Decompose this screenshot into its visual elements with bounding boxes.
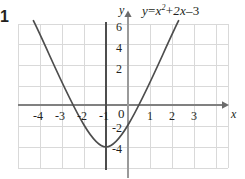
x-tick-label-2: 2 xyxy=(169,110,175,122)
parabola-figure: 1 xyxy=(0,0,245,178)
x-tick-label--2: -2 xyxy=(77,110,87,122)
y-tick-label-2: 2 xyxy=(116,63,122,75)
x-tick-label-3: 3 xyxy=(191,110,197,122)
equation-minus: – xyxy=(186,3,193,18)
y-tick-label--2: -2 xyxy=(112,122,122,134)
x-tick-label--1: -1 xyxy=(99,110,109,122)
y-tick-label-6: 6 xyxy=(116,21,122,33)
y-tick-label--4: -4 xyxy=(112,143,122,155)
equation-label: y=x2+2x–3 xyxy=(142,3,199,19)
y-tick-label-4: 4 xyxy=(116,42,122,54)
x-axis-label: x xyxy=(231,108,236,120)
y-axis-arrow xyxy=(124,11,131,18)
equation-constant: 3 xyxy=(193,3,200,18)
y-axis-label: y xyxy=(119,4,124,16)
x-tick-label--4: -4 xyxy=(33,110,43,122)
x-tick-label-1: 1 xyxy=(147,110,153,122)
x-tick-label-0: 0 xyxy=(118,107,125,120)
equation-equals: = xyxy=(148,3,156,18)
graph-canvas xyxy=(0,0,245,178)
equation-linear-term: 2x xyxy=(173,3,186,18)
grid-lines xyxy=(18,24,228,168)
y-axis xyxy=(124,11,131,179)
x-tick-label--3: -3 xyxy=(55,110,65,122)
